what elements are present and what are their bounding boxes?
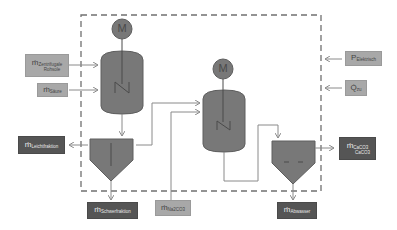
output-product-label: ṁCaCO3 CaCO3 xyxy=(339,137,376,160)
settler-1 xyxy=(90,139,133,181)
output-light-fraction-label: ṁLeichtfraktion xyxy=(18,136,65,154)
reactor-1 xyxy=(101,51,143,114)
output-wastewater-label: ṁAbwasser xyxy=(277,202,317,219)
process-diagram xyxy=(0,0,397,230)
output-heavy-fraction-label: ṁSchwerfraktion xyxy=(87,202,138,219)
input-acid-label: ṁSäure xyxy=(37,83,68,97)
input-na2co3-label: ṁNa2CO3 xyxy=(155,200,191,216)
input-power-label: PElektrisch xyxy=(345,51,382,66)
motor-2-label: M xyxy=(216,62,230,74)
input-heat-label: Q̇zu xyxy=(345,80,367,96)
reactor-2 xyxy=(203,90,245,152)
settler-2 xyxy=(272,141,315,184)
input-feed-label: ṁZentrifugale Rohsole xyxy=(25,54,69,77)
motor-1-label: M xyxy=(115,22,129,34)
